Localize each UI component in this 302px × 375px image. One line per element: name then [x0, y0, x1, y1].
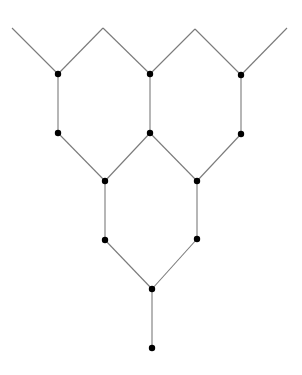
edge-E-H	[150, 133, 197, 181]
node-B	[147, 71, 153, 77]
edge-P2-B	[103, 28, 150, 74]
edge-P3-C	[195, 29, 241, 75]
edge-A-P2	[58, 28, 103, 74]
edge-B-P3	[150, 29, 195, 74]
edge-P1-A	[12, 28, 58, 74]
edge-D-G	[58, 133, 105, 181]
edge-K-J	[152, 239, 197, 289]
edge-C-P4	[241, 28, 287, 75]
node-K	[149, 286, 155, 292]
edge-G-E	[105, 133, 150, 181]
node-H	[194, 178, 200, 184]
node-L	[149, 345, 155, 351]
edge-I-K	[105, 240, 152, 289]
node-J	[194, 236, 200, 242]
graph-diagram	[0, 0, 302, 375]
node-F	[238, 131, 244, 137]
node-A	[55, 71, 61, 77]
edge-H-F	[197, 134, 241, 181]
node-E	[147, 130, 153, 136]
node-C	[238, 72, 244, 78]
node-G	[102, 178, 108, 184]
node-I	[102, 237, 108, 243]
node-D	[55, 130, 61, 136]
